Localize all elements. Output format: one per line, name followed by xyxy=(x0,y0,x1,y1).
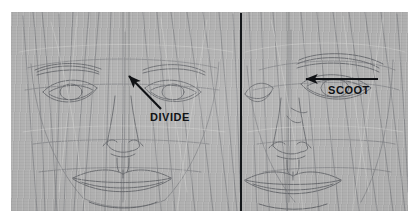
toned-paper-sheet xyxy=(11,12,408,211)
left-face-sketch xyxy=(11,12,240,211)
scoot-annotation-label: SCOOT xyxy=(328,85,370,96)
right-face-sketch xyxy=(243,12,408,211)
left-panel-drawing xyxy=(11,12,240,211)
screenshot-canvas: DIVIDE SCOOT xyxy=(0,0,418,224)
divide-annotation-label: DIVIDE xyxy=(150,112,190,123)
right-panel-drawing xyxy=(243,12,408,211)
vertical-black-divider-line xyxy=(240,13,242,211)
